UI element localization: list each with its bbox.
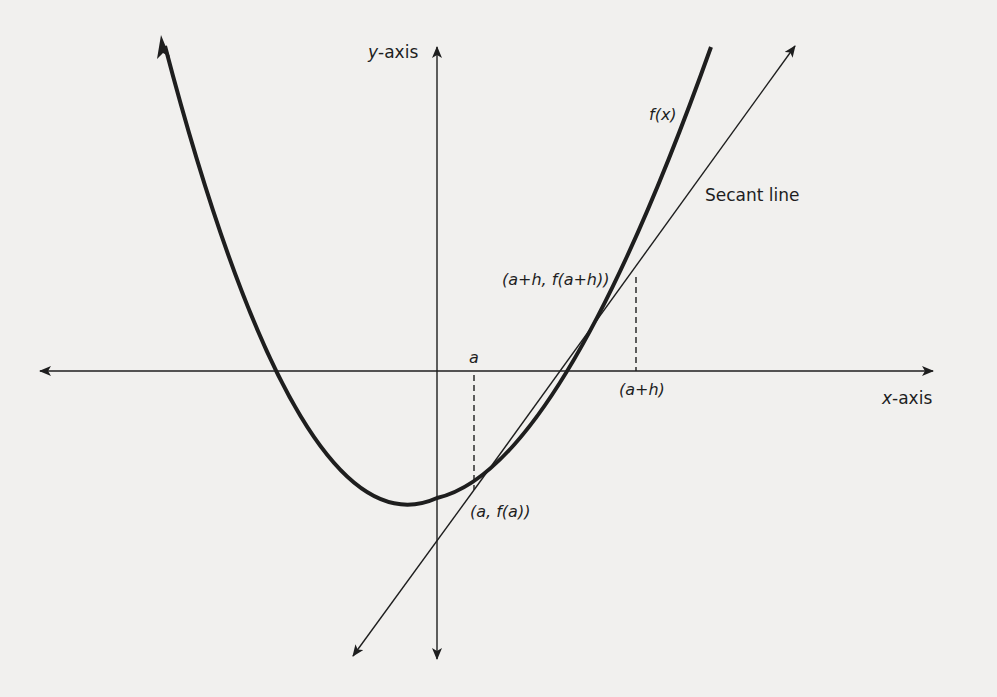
secant-line-lower (353, 490, 474, 656)
x-axis-label: x-axis (881, 388, 932, 408)
point-a-plus-h-label: (a+h, f(a+h)) (502, 270, 609, 289)
curve-label: f(x) (649, 105, 677, 124)
diagram-canvas: y-axis x-axis f(x) Secant line (a+h, f(a… (0, 0, 997, 697)
a-plus-h-tick-label: (a+h) (619, 380, 665, 399)
a-tick-label: a (469, 348, 479, 367)
secant-line-label: Secant line (705, 185, 800, 205)
secant-line (474, 46, 795, 490)
secant-line-diagram: y-axis x-axis f(x) Secant line (a+h, f(a… (0, 0, 997, 697)
point-a-label: (a, f(a)) (470, 502, 530, 521)
curve-arrow-icon (157, 35, 170, 59)
y-axis-label: y-axis (367, 42, 418, 62)
